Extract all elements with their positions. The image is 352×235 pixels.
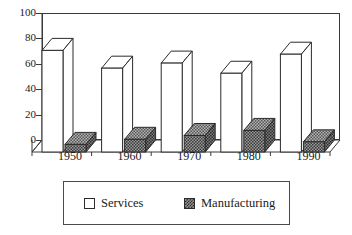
- legend-item-services: Services: [84, 197, 143, 210]
- bar-services: [42, 38, 73, 152]
- y-axis-tick-mark: [36, 140, 42, 141]
- legend-swatch-manufacturing-icon: [184, 198, 195, 209]
- bar-side-face: [63, 38, 73, 152]
- legend: Services Manufacturing: [63, 181, 290, 225]
- y-axis-tick-mark: [36, 38, 42, 39]
- bar-front-face: [280, 54, 301, 152]
- y-axis-tick-label: 100: [20, 7, 37, 18]
- bar-front-face: [161, 63, 182, 152]
- x-axis-tick-label: 1970: [166, 150, 212, 162]
- bar-front-face: [102, 68, 123, 152]
- y-axis-tick-label: 40: [25, 83, 36, 94]
- bars-layer: [32, 38, 334, 156]
- x-axis-tick-label: 1980: [226, 150, 272, 162]
- x-axis-labels: 19501960197019801990: [0, 150, 352, 168]
- y-axis-tick-mark: [36, 89, 42, 90]
- y-axis: 020406080100: [0, 0, 42, 160]
- x-axis-tick-label: 1950: [47, 150, 93, 162]
- y-axis-tick-label: 60: [25, 58, 36, 69]
- y-axis-tick-mark: [36, 64, 42, 65]
- y-axis-tick-label: 20: [25, 109, 36, 120]
- x-axis-tick-label: 1990: [285, 150, 331, 162]
- legend-label-services: Services: [101, 197, 143, 210]
- y-axis-tick-mark: [36, 13, 42, 14]
- legend-item-manufacturing: Manufacturing: [184, 197, 275, 210]
- bar-chart: 020406080100 19501960197019801990 Servic…: [0, 0, 352, 235]
- bar-services: [280, 42, 311, 152]
- x-axis-tick-label: 1960: [107, 150, 153, 162]
- y-axis-tick-mark: [36, 115, 42, 116]
- y-axis-tick-label: 80: [25, 32, 36, 43]
- bar-front-face: [221, 73, 242, 152]
- legend-swatch-services-icon: [84, 198, 95, 209]
- legend-label-manufacturing: Manufacturing: [201, 197, 275, 210]
- bar-front-face: [42, 50, 63, 152]
